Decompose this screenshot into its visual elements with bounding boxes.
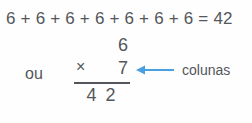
annotation-label-text: colunas — [182, 62, 230, 78]
connector-word-ou: ou — [25, 65, 43, 83]
multiplicand-row: 6 — [74, 35, 132, 58]
vertical-multiplication: 6 × 7 4 2 — [74, 35, 132, 81]
math-figure: 6 + 6 + 6 + 6 + 6 + 6 + 6 = 42 ou 6 × 7 … — [0, 0, 252, 123]
multiplication-rule-line — [74, 82, 130, 84]
multiplier-row: × 7 — [74, 58, 132, 81]
annotation-colunas: colunas — [136, 62, 230, 78]
repeated-addition-equation: 6 + 6 + 6 + 6 + 6 + 6 + 6 = 42 — [6, 9, 233, 29]
arrow-left-icon — [136, 64, 174, 76]
product-value: 4 2 — [74, 85, 130, 106]
multiplication-operator-icon: × — [76, 58, 85, 76]
multiplier-value: 7 — [118, 58, 128, 79]
multiplicand-value: 6 — [118, 35, 128, 56]
